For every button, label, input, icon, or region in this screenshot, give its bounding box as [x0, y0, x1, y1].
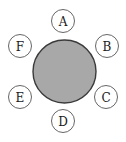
seat-f: F	[9, 35, 32, 58]
seat-d-label: D	[58, 115, 68, 129]
seat-e-label: E	[16, 91, 25, 105]
seat-a-label: A	[58, 15, 68, 29]
seat-f-label: F	[16, 40, 24, 54]
seat-b-label: B	[103, 40, 112, 54]
seat-c-label: C	[101, 91, 110, 105]
seat-e: E	[9, 86, 32, 109]
center-table-circle	[33, 40, 96, 103]
round-table-diagram: A B C D E F	[0, 0, 126, 142]
seat-d: D	[52, 110, 75, 133]
seat-b: B	[96, 35, 119, 58]
seat-a: A	[52, 10, 75, 33]
seat-c: C	[95, 86, 118, 109]
